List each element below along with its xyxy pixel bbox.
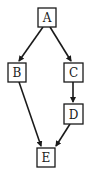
node-label: B [13, 66, 22, 80]
node-d: D [64, 104, 83, 124]
node-label: E [42, 151, 51, 165]
edges-layer [19, 27, 73, 146]
node-label: D [69, 108, 79, 122]
node-a: A [38, 8, 56, 27]
edge-a-to-c [50, 27, 71, 61]
edge-d-to-e [56, 124, 70, 146]
edge-a-to-b [19, 27, 43, 61]
node-b: B [8, 63, 26, 82]
edge-b-to-e [19, 82, 41, 146]
nodes-layer: ABCDE [8, 8, 83, 167]
node-label: A [42, 11, 52, 25]
node-label: C [69, 66, 78, 80]
node-e: E [37, 148, 55, 167]
directed-graph: ABCDE [0, 0, 89, 178]
node-c: C [64, 63, 83, 82]
